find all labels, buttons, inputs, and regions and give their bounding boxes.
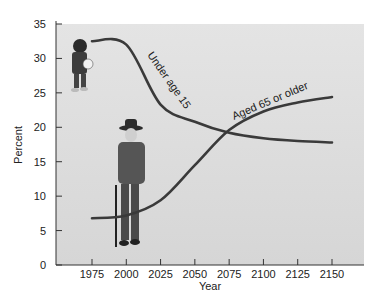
y-tick-label: 5 (40, 225, 46, 237)
plot-area (56, 24, 364, 265)
x-tick-label: 1975 (80, 268, 104, 280)
y-tick-label: 0 (40, 259, 46, 271)
y-tick-label: 20 (34, 121, 46, 133)
x-tick-label: 2075 (217, 268, 241, 280)
line-chart: 0510152025303519752000202520502075210021… (0, 0, 380, 304)
x-tick-label: 2150 (320, 268, 344, 280)
x-tick-label: 2100 (251, 268, 275, 280)
x-tick-label: 2125 (285, 268, 309, 280)
y-tick-label: 10 (34, 190, 46, 202)
x-tick-label: 2000 (114, 268, 138, 280)
y-tick-label: 35 (34, 18, 46, 30)
y-tick-label: 15 (34, 156, 46, 168)
x-tick-label: 2050 (183, 268, 207, 280)
y-tick-label: 25 (34, 87, 46, 99)
x-tick-label: 2025 (148, 268, 172, 280)
y-axis-title: Percent (12, 126, 24, 164)
y-tick-label: 30 (34, 52, 46, 64)
x-axis-title: Year (199, 280, 222, 292)
